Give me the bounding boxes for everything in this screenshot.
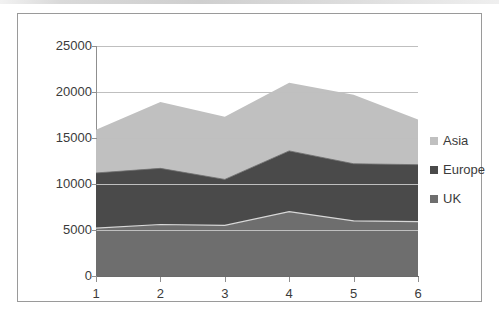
legend-label-uk: UK [443,192,461,205]
legend-label-asia: Asia [443,134,468,147]
x-tick-label: 2 [145,286,175,301]
gridline [96,46,418,47]
x-tick-mark [289,277,290,282]
gridline [96,230,418,231]
y-tick-label: 20000 [30,85,92,98]
legend-swatch-uk [430,195,438,203]
x-tick-label: 5 [339,286,369,301]
gridline [96,184,418,185]
stacked-area-series-group [96,46,418,276]
legend-item-europe[interactable]: Europe [430,163,499,176]
y-tick-mark [92,46,97,47]
legend-swatch-europe [430,166,438,174]
scan-artifact-strip [0,0,499,4]
legend-swatch-asia [430,137,438,145]
legend-item-uk[interactable]: UK [430,192,499,205]
x-tick-mark [418,277,419,282]
y-axis-tick-labels: 0500010000150002000025000 [26,14,92,303]
chart-frame: 0500010000150002000025000 123456 Asia Eu… [17,13,482,302]
x-tick-label: 6 [403,286,433,301]
y-tick-label: 25000 [30,39,92,52]
y-tick-mark [92,230,97,231]
y-tick-mark [92,276,97,277]
y-tick-mark [92,92,97,93]
x-tick-label: 4 [274,286,304,301]
x-tick-mark [96,277,97,282]
gridline [96,138,418,139]
x-tick-label: 3 [210,286,240,301]
y-tick-mark [92,184,97,185]
plot-area [96,46,418,276]
legend-item-asia[interactable]: Asia [430,134,499,147]
x-axis-line [96,276,419,277]
y-tick-label: 0 [30,269,92,282]
legend-label-europe: Europe [443,163,485,176]
x-tick-mark [160,277,161,282]
x-tick-label: 1 [81,286,111,301]
chart-legend: Asia Europe UK [430,134,499,221]
y-tick-label: 15000 [30,131,92,144]
y-tick-label: 5000 [30,223,92,236]
x-tick-mark [354,277,355,282]
gridline [96,92,418,93]
x-tick-mark [225,277,226,282]
y-tick-mark [92,138,97,139]
y-tick-label: 10000 [30,177,92,190]
